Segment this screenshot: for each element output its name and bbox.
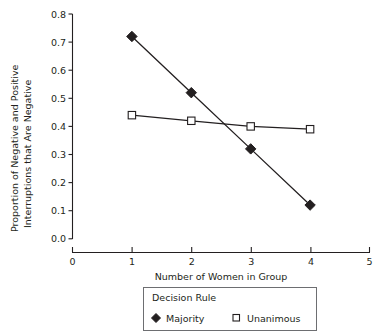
y-axis-label: Proportion of Negative and Positive Inte… [9,64,33,232]
data-point-open-square [247,123,254,130]
y-tick-label: 0.1 [51,205,66,216]
x-tick-label: 5 [366,256,372,267]
series-majority [127,31,316,210]
x-axis [72,247,370,253]
legend-item-majority[interactable]: Majority [152,313,205,324]
y-tick-label: 0.7 [51,37,66,48]
open-square-icon [233,315,240,322]
data-point-open-square [188,117,195,124]
series-unanimous [128,111,314,132]
x-tick-label: 4 [308,256,314,267]
x-tick-labels: 0 1 2 3 4 5 [69,256,372,267]
x-tick-label: 2 [189,256,195,267]
y-tick-label: 0.8 [51,9,66,20]
filled-diamond-icon [152,314,161,323]
x-tick-label: 1 [129,256,135,267]
y-tick-label: 0.2 [51,177,66,188]
data-point-open-square [128,111,135,118]
x-tick-label: 3 [248,256,254,267]
legend-title: Decision Rule [152,292,216,303]
y-tick-labels: 0.8 0.7 0.6 0.5 0.4 0.3 0.2 0.1 0.0 [51,9,66,245]
chart-figure: Proportion of Negative and Positive Inte… [0,0,385,335]
series-line [132,36,310,205]
data-point-open-square [306,126,313,133]
legend-item-unanimous[interactable]: Unanimous [233,313,301,324]
y-tick-label: 0.3 [51,149,66,160]
y-tick-label: 0.6 [51,65,66,76]
y-tick-label: 0.0 [51,233,66,244]
series-line [132,115,310,129]
y-axis-label-line2: Interruptions that Are Negative [22,80,33,228]
series-layer [127,31,316,210]
x-axis-label: Number of Women in Group [155,271,288,282]
y-tick-label: 0.5 [51,93,66,104]
legend: Decision Rule Majority Unanimous [144,288,317,331]
x-tick-label: 0 [69,256,75,267]
y-tick-label: 0.4 [51,121,66,132]
y-axis-label-line1: Proportion of Negative and Positive [9,64,20,232]
legend-label: Majority [166,313,205,324]
y-axis [69,14,73,239]
legend-label: Unanimous [247,313,301,324]
chart-svg: Proportion of Negative and Positive Inte… [0,0,385,335]
